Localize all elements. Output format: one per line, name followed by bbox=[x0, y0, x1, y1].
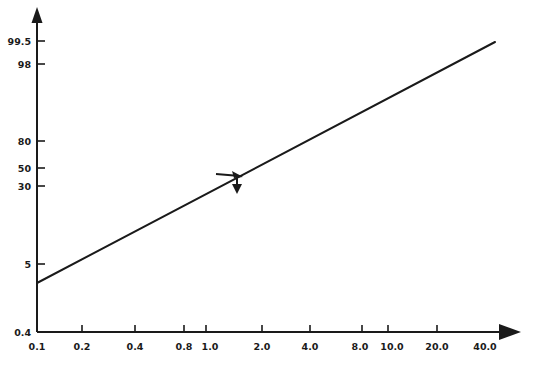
x-tick-label: 0.4 bbox=[127, 341, 144, 352]
chart-container: 99.5 98 80 50 30 5 0.4 0.1 0.2 0.4 0.8 1… bbox=[0, 0, 536, 365]
x-tick-label: 2.0 bbox=[254, 341, 271, 352]
x-tick-label: 8.0 bbox=[352, 341, 369, 352]
y-tick-label: 30 bbox=[18, 181, 32, 192]
y-tick-label: 99.5 bbox=[8, 36, 31, 47]
y-tick-label: 80 bbox=[18, 136, 32, 147]
y-tick-label: 5 bbox=[24, 259, 31, 270]
y-tick-label-origin: 0.4 bbox=[14, 327, 31, 338]
probability-plot: 99.5 98 80 50 30 5 0.4 0.1 0.2 0.4 0.8 1… bbox=[0, 0, 536, 365]
x-tick-label: 0.1 bbox=[29, 341, 46, 352]
x-tick-label: 10.0 bbox=[380, 341, 404, 352]
x-tick-label: 4.0 bbox=[302, 341, 319, 352]
y-tick-label: 50 bbox=[18, 163, 32, 174]
x-tick-label: 0.2 bbox=[74, 341, 91, 352]
plot-background bbox=[0, 0, 536, 365]
x-tick-label: 20.0 bbox=[425, 341, 449, 352]
x-tick-label: 40.0 bbox=[473, 341, 497, 352]
y-tick-label: 98 bbox=[18, 59, 32, 70]
x-tick-label: 0.8 bbox=[176, 341, 193, 352]
x-tick-label: 1.0 bbox=[202, 341, 219, 352]
